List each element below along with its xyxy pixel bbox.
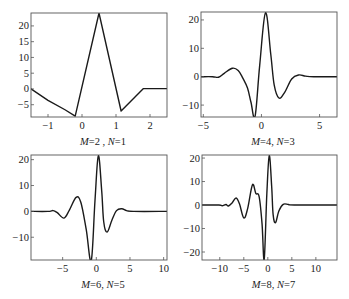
x-tick-label: 5 (317, 120, 322, 131)
y-tick-label: 0 (24, 83, 29, 94)
x-tick-label: 0 (79, 120, 84, 131)
subplot-m4-n3: −505−1001020M=4, N=3 (183, 12, 337, 147)
subplot-m8-n7: −10−50510−20−1001020M=8, N=7 (184, 153, 337, 290)
y-tick-label: 5 (24, 68, 29, 79)
y-tick-label: −5 (18, 99, 29, 110)
subplot-caption: M=2 , N=1 (79, 136, 126, 147)
y-tick-label: 10 (19, 180, 30, 191)
subplot-caption: M=6, N=5 (80, 279, 124, 290)
y-tick-label: −10 (183, 100, 199, 111)
x-tick-label: 0 (94, 263, 99, 274)
figure: −1012−505101520M=2 , N=1 −505−1001020M=4… (0, 0, 349, 299)
plot-frame (31, 155, 167, 260)
x-tick-label: −10 (212, 263, 228, 274)
x-tick-label: −5 (238, 263, 249, 274)
y-tick-label: 0 (194, 71, 199, 82)
x-tick-label: 5 (127, 263, 132, 274)
y-tick-label: 0 (195, 200, 200, 211)
y-tick-label: 20 (19, 154, 30, 165)
subplot-m6-n5: −50510−1001020M=6, N=5 (13, 154, 169, 290)
x-tick-label: 10 (311, 263, 322, 274)
y-tick-label: 10 (19, 52, 30, 63)
y-tick-label: 0 (24, 206, 29, 217)
x-tick-label: −1 (42, 120, 53, 131)
data-curve (201, 13, 337, 118)
x-tick-label: 2 (147, 120, 152, 131)
plot-frame (201, 12, 337, 117)
y-tick-label: 10 (189, 43, 200, 54)
data-curve (31, 13, 167, 116)
y-tick-label: 20 (189, 14, 200, 25)
subplot-m2-n1: −1012−505101520M=2 , N=1 (18, 13, 167, 147)
x-tick-label: −5 (57, 263, 68, 274)
x-tick-label: 5 (289, 263, 294, 274)
subplot-caption: M=8, N=7 (251, 279, 295, 290)
x-tick-label: −5 (198, 120, 209, 131)
y-tick-label: 20 (19, 20, 30, 31)
x-tick-label: 0 (259, 120, 264, 131)
data-curve (31, 156, 167, 262)
y-tick-label: 15 (19, 36, 30, 47)
subplot-caption: M=4, N=3 (250, 136, 294, 147)
data-curve (202, 156, 337, 260)
x-tick-label: 1 (113, 120, 118, 131)
y-tick-label: −10 (13, 232, 29, 243)
plot-frame (202, 155, 337, 260)
x-tick-label: 0 (265, 263, 270, 274)
y-tick-label: −20 (184, 247, 200, 258)
y-tick-label: 20 (190, 153, 201, 164)
y-tick-label: 10 (190, 176, 201, 187)
y-tick-label: −10 (184, 223, 200, 234)
x-tick-label: 10 (158, 263, 169, 274)
